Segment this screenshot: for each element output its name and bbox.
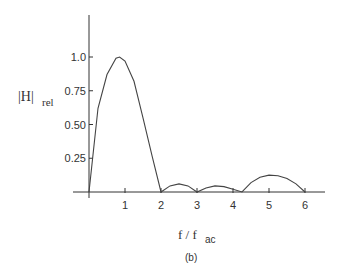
x-tick-label: 3 — [194, 199, 200, 211]
chart: 123456 0.250.500.751.0 |H| rel f / f ac … — [0, 0, 338, 276]
x-label-sub: ac — [205, 234, 216, 245]
data-curve — [89, 57, 305, 192]
x-tick-label: 1 — [122, 199, 128, 211]
y-tick-label: 1.0 — [71, 51, 86, 63]
x-label-main: f / f — [178, 227, 197, 242]
y-label-main: |H| — [18, 89, 34, 104]
x-axis-label: f / f ac — [178, 227, 216, 245]
x-tick-label: 5 — [266, 199, 272, 211]
y-tick-label: 0.75 — [65, 85, 86, 97]
y-tick-label: 0.50 — [65, 119, 86, 131]
axes — [73, 15, 325, 198]
x-tick-label: 4 — [230, 199, 236, 211]
x-tick-label: 6 — [302, 199, 308, 211]
y-axis-label: |H| rel — [18, 89, 54, 108]
figure-caption: (b) — [185, 252, 197, 263]
x-tick-label: 2 — [158, 199, 164, 211]
y-tick-label: 0.25 — [65, 152, 86, 164]
x-ticks: 123456 — [122, 188, 308, 211]
y-label-sub: rel — [42, 96, 54, 108]
